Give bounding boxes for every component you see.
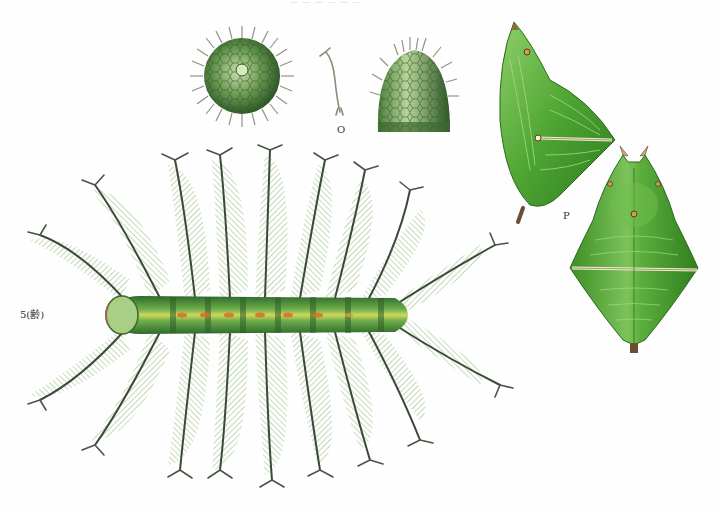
- illustration-plate: — — — — — —: [0, 0, 720, 508]
- egg-side-view: [370, 37, 459, 132]
- egg-top-view: [190, 26, 294, 127]
- label-pupa-group: P: [563, 210, 570, 221]
- label-egg-group: O: [337, 124, 345, 135]
- illustration-canvas: O: [0, 0, 720, 508]
- pupa-lateral: [500, 22, 615, 222]
- larva-dorsal: [28, 145, 513, 487]
- label-larva-stage: 5(齢): [20, 308, 44, 320]
- egg-bristle-detail: [320, 48, 343, 115]
- pupa-dorsal: [570, 146, 698, 353]
